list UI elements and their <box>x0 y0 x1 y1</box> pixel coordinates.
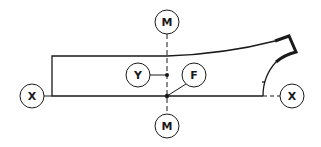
svg-text:X: X <box>288 90 297 103</box>
technical-diagram: X X M M Y F <box>0 0 321 147</box>
svg-text:M: M <box>162 16 173 29</box>
label-y: Y <box>126 63 150 87</box>
svg-text:M: M <box>162 120 173 133</box>
svg-text:F: F <box>190 69 198 82</box>
label-x-right: X <box>280 84 304 108</box>
point-y-dot <box>165 73 169 77</box>
label-m-bottom: M <box>155 114 179 138</box>
label-m-top: M <box>155 10 179 34</box>
svg-text:X: X <box>28 90 37 103</box>
label-x-left: X <box>20 84 44 108</box>
label-f: F <box>182 63 206 87</box>
svg-text:Y: Y <box>133 69 143 82</box>
point-f-dot <box>165 94 169 98</box>
part-outline <box>52 36 296 96</box>
leader-lines <box>150 75 186 96</box>
